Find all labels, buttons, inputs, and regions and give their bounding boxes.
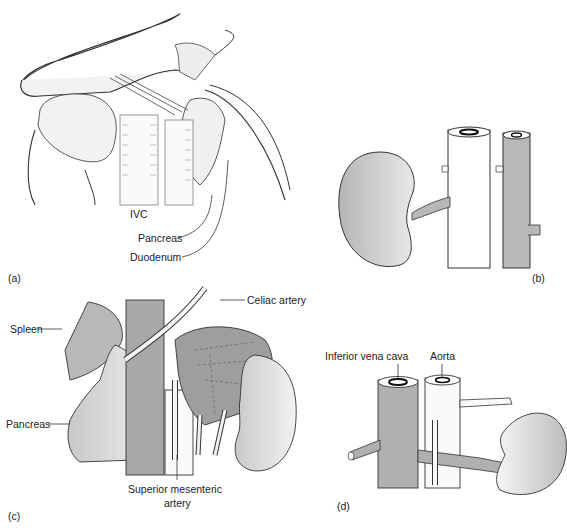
panel-tag-c: (c) [8,510,20,522]
panel-b-illustration [300,100,567,280]
label-sma-line2: artery [164,497,191,509]
label-pancreas-c: Pancreas [6,418,50,430]
label-celiac-artery: Celiac artery [247,294,306,306]
label-sma-line1: Superior mesenteric [128,483,222,495]
panel-c: Spleen Celiac artery Pancreas Superior m… [0,280,300,528]
label-inferior-vena-cava: Inferior vena cava [325,350,408,362]
label-spleen: Spleen [10,323,43,335]
panel-d: Inferior vena cava Aorta (d) [300,340,567,528]
label-pancreas-a: Pancreas [138,232,182,244]
panel-a-illustration [0,0,300,270]
panel-b: (b) [300,100,567,280]
panel-a: IVC Pancreas Duodenum (a) [0,0,300,270]
label-duodenum: Duodenum [130,251,181,263]
panel-tag-d: (d) [337,500,350,512]
label-ivc: IVC [130,208,148,220]
panel-tag-b: (b) [532,272,545,284]
label-aorta: Aorta [430,350,455,362]
